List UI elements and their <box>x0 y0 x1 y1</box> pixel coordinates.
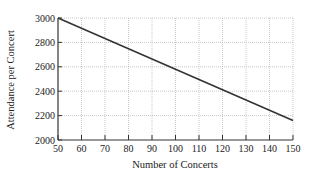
y-tick-label: 3000 <box>35 13 55 24</box>
x-tick-label: 150 <box>286 143 301 154</box>
series-line <box>58 18 293 120</box>
x-tick-label: 140 <box>262 143 277 154</box>
line-chart: 5060708090100110120130140150200022002400… <box>0 0 314 181</box>
y-tick-label: 2200 <box>35 110 55 121</box>
x-axis-label: Number of Concerts <box>132 159 218 170</box>
x-tick-label: 90 <box>147 143 157 154</box>
y-tick-label: 2800 <box>35 37 55 48</box>
y-tick-label: 2400 <box>35 86 55 97</box>
y-tick-label: 2600 <box>35 61 55 72</box>
x-tick-label: 130 <box>239 143 254 154</box>
x-tick-label: 80 <box>124 143 134 154</box>
grid <box>58 18 293 140</box>
y-axis-label: Attendance per Concert <box>5 30 16 130</box>
x-tick-label: 120 <box>215 143 230 154</box>
x-tick-label: 70 <box>100 143 110 154</box>
x-tick-label: 100 <box>168 143 183 154</box>
data-series <box>58 18 293 120</box>
y-tick-label: 2000 <box>35 135 55 146</box>
x-tick-label: 110 <box>192 143 207 154</box>
x-tick-label: 60 <box>77 143 87 154</box>
tick-labels: 5060708090100110120130140150200022002400… <box>35 13 301 155</box>
